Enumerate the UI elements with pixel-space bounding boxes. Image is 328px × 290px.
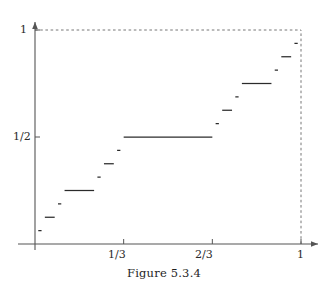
y-axis-arrow-icon (32, 22, 38, 29)
x-axis-arrow-icon (311, 241, 318, 247)
y-axis-label-1: 1 (20, 24, 27, 35)
axes (18, 22, 318, 250)
x-axis-label-1: 1 (297, 249, 304, 260)
x-axis-label-two-thirds: 2/3 (195, 249, 213, 260)
figure-caption: Figure 5.3.4 (0, 266, 328, 280)
cantor-function-plot (0, 0, 328, 290)
y-axis-label-half: 1/2 (13, 131, 31, 142)
cantor-staircase-segments (38, 43, 297, 230)
x-axis-label-one-third: 1/3 (108, 249, 126, 260)
figure-container: 1 1/2 1/3 2/3 1 Figure 5.3.4 (0, 0, 328, 290)
